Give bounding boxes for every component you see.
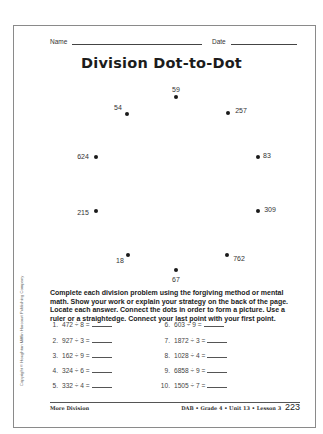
page-number: 223 (285, 402, 300, 412)
problem-number: 1. (44, 321, 58, 328)
answer-blank[interactable] (92, 383, 112, 388)
problem-expression: 603 ÷ 9 = (174, 321, 202, 328)
date-field[interactable] (231, 39, 297, 45)
dot-point[interactable] (174, 95, 178, 99)
footer-lesson-title: More Division (50, 405, 89, 411)
page-title: Division Dot-to-Dot (0, 55, 323, 71)
name-date-row: Name Date (50, 38, 297, 45)
problem-item: 1.472 ÷ 8 = (44, 321, 112, 328)
answer-blank[interactable] (207, 383, 227, 388)
problem-number: 10. (156, 382, 170, 389)
problem-number: 4. (44, 367, 58, 374)
problem-expression: 324 ÷ 6 = (62, 367, 90, 374)
answer-blank[interactable] (92, 353, 112, 358)
problem-expression: 1028 ÷ 4 = (174, 352, 205, 359)
instructions-text: Complete each division problem using the… (50, 289, 298, 323)
copyright-notice: Copyright © Houghton Mifflin Harcourt Pu… (19, 276, 24, 386)
dot-point[interactable] (125, 112, 129, 116)
answer-blank[interactable] (92, 368, 112, 373)
problem-item: 10.1505 ÷ 7 = (156, 382, 227, 389)
problem-expression: 332 ÷ 4 = (62, 382, 90, 389)
answer-blank[interactable] (207, 338, 227, 343)
problem-number: 7. (156, 337, 170, 344)
dot-label: 215 (77, 209, 89, 216)
problem-number: 6. (156, 321, 170, 328)
problem-item: 8.1028 ÷ 4 = (156, 352, 227, 359)
problem-item: 3.162 ÷ 9 = (44, 352, 112, 359)
dot-point[interactable] (225, 253, 229, 257)
dot-point[interactable] (94, 155, 98, 159)
dot-label: 83 (263, 152, 271, 159)
problem-item: 9.6858 ÷ 9 = (156, 367, 227, 374)
problem-number: 3. (44, 352, 58, 359)
dot-point[interactable] (226, 111, 230, 115)
problem-expression: 162 ÷ 9 = (62, 352, 90, 359)
answer-blank[interactable] (92, 322, 112, 327)
dot-label: 309 (264, 206, 276, 213)
problem-item: 2.927 ÷ 3 = (44, 337, 112, 344)
dot-label: 257 (235, 107, 247, 114)
name-label: Name (50, 38, 67, 45)
problem-item: 4.324 ÷ 6 = (44, 367, 112, 374)
dot-label: 67 (172, 276, 180, 283)
problem-item: 7.1872 ÷ 3 = (156, 337, 227, 344)
problem-expression: 472 ÷ 8 = (62, 321, 90, 328)
dot-label: 762 (233, 255, 245, 262)
problem-number: 5. (44, 382, 58, 389)
answer-blank[interactable] (204, 322, 224, 327)
dot-label: 624 (77, 153, 89, 160)
dot-point[interactable] (256, 155, 260, 159)
problem-number: 2. (44, 337, 58, 344)
dot-label: 54 (114, 104, 122, 111)
problem-expression: 1872 ÷ 3 = (174, 337, 205, 344)
answer-blank[interactable] (207, 353, 227, 358)
problem-expression: 927 ÷ 3 = (62, 337, 90, 344)
dot-point[interactable] (256, 209, 260, 213)
date-label: Date (212, 38, 226, 45)
dot-point[interactable] (174, 268, 178, 272)
problem-expression: 1505 ÷ 7 = (174, 382, 205, 389)
footer-lesson-info: DAB • Grade 4 • Unit 13 • Lesson 3 223 (181, 402, 300, 412)
dot-point[interactable] (94, 209, 98, 213)
footer-course-info: DAB • Grade 4 • Unit 13 • Lesson 3 (181, 405, 281, 411)
problem-item: 6.603 ÷ 9 = (156, 321, 224, 328)
answer-blank[interactable] (92, 338, 112, 343)
dot-label: 18 (116, 257, 124, 264)
problem-expression: 6858 ÷ 9 = (174, 367, 205, 374)
name-field[interactable] (72, 39, 202, 45)
problem-number: 9. (156, 367, 170, 374)
problem-item: 5.332 ÷ 4 = (44, 382, 112, 389)
dot-point[interactable] (126, 253, 130, 257)
answer-blank[interactable] (207, 368, 227, 373)
dot-label: 59 (172, 86, 180, 93)
problem-number: 8. (156, 352, 170, 359)
